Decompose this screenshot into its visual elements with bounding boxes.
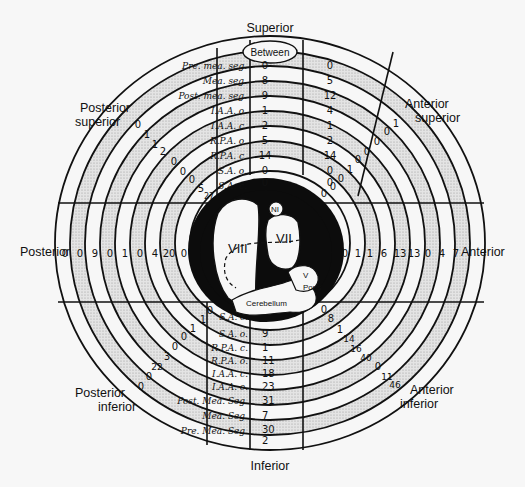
- value: 0: [330, 181, 336, 192]
- value-right: 0: [327, 165, 333, 176]
- label-posterior-superior-1: Posterior: [80, 101, 130, 115]
- value: 1: [190, 323, 196, 334]
- row-label: Pre. mea. seg.: [181, 61, 247, 71]
- label-posterior-inferior-1: Posterior: [75, 386, 125, 400]
- value: 31: [262, 395, 275, 406]
- value: 0: [138, 381, 144, 392]
- label-anterior-superior-1: Anterior: [405, 97, 449, 111]
- row-label: S.A. o.: [218, 166, 247, 176]
- row-label: R.P.A. o.: [210, 356, 248, 366]
- value-left: 0: [262, 60, 268, 71]
- value: 1: [355, 248, 361, 259]
- value-left: 9: [262, 90, 268, 101]
- value: 40: [360, 353, 372, 363]
- label-cerebellum: Cerebellum: [246, 299, 287, 308]
- value-left: 0: [262, 177, 268, 188]
- label-anterior: Anterior: [461, 245, 505, 259]
- value: 6: [381, 248, 387, 259]
- label-pons: Pons: [303, 283, 321, 292]
- value: 22: [151, 362, 162, 372]
- value: 9: [92, 248, 98, 259]
- value: 0: [374, 136, 380, 147]
- row-label: R.P.A. c.: [210, 343, 248, 353]
- row-label: Post. Mea. Seg.: [176, 396, 248, 406]
- value: 14: [343, 334, 355, 344]
- value: 0: [321, 188, 327, 199]
- value: 0: [171, 156, 177, 167]
- value: 1: [144, 129, 150, 140]
- value: 0: [146, 371, 152, 382]
- value: 0: [375, 361, 381, 372]
- value-left: 14: [259, 150, 272, 161]
- value: 4: [439, 248, 445, 259]
- row-label: S.A. c.: [218, 181, 247, 191]
- value: 23: [262, 381, 275, 392]
- value: 2: [262, 435, 268, 446]
- value-left: 8: [262, 75, 268, 86]
- value: 2: [160, 146, 166, 157]
- value: 0: [181, 331, 187, 342]
- value: 13: [394, 248, 407, 259]
- label-viii: VIII: [228, 241, 248, 256]
- row-label: Mea. seg.: [202, 76, 247, 86]
- value: 7: [453, 248, 459, 259]
- value: 0: [107, 248, 113, 259]
- value: 0: [62, 248, 68, 259]
- row-label: I.A.A. c.: [210, 121, 247, 131]
- value: 1: [122, 248, 128, 259]
- row-label: Pre. Mea. Seg.: [180, 426, 248, 436]
- value-left: 5: [262, 135, 268, 146]
- value: 0: [384, 126, 390, 137]
- value: 13: [408, 248, 421, 259]
- value-right: 12: [324, 90, 337, 101]
- row-label: I.A.A. c.: [211, 369, 248, 379]
- row-label: I.A.A. o.: [210, 106, 247, 116]
- row-label: Mea. Seg.: [201, 411, 248, 421]
- value: 18: [262, 368, 275, 379]
- value: 0: [181, 248, 187, 259]
- value: 8: [328, 313, 334, 324]
- value: 0: [135, 119, 141, 130]
- value: 1: [200, 314, 206, 325]
- value: 4: [152, 248, 158, 259]
- value-right: 4: [327, 105, 333, 116]
- posterior-values: 0 0 9 0 1 0 4 20 0: [62, 248, 187, 259]
- label-ni: NI: [271, 205, 279, 214]
- anterior-values: 0 1 1 6 13 13 0 4 7: [342, 248, 459, 259]
- value: 11: [262, 355, 275, 366]
- value-left: 1: [262, 105, 268, 116]
- value: 3: [164, 351, 170, 362]
- value: 0: [172, 341, 178, 352]
- value: 7: [262, 410, 268, 421]
- value: 0: [137, 248, 143, 259]
- value: 1: [367, 248, 373, 259]
- label-v: V: [303, 271, 309, 280]
- between-label: Between: [251, 47, 290, 58]
- value: 0: [425, 248, 431, 259]
- label-inferior: Inferior: [251, 459, 290, 473]
- value: 0: [189, 174, 195, 185]
- row-label: R.P.A. c.: [209, 151, 247, 161]
- value: 1: [152, 139, 158, 150]
- row-label: R.P.A. o.: [209, 136, 247, 146]
- row-label: S.A. c.: [219, 312, 248, 322]
- value-right: 0: [327, 60, 333, 71]
- value: 0: [364, 146, 370, 157]
- label-vii: VII: [276, 231, 292, 246]
- value: 0: [338, 173, 344, 184]
- value-right: 14: [324, 150, 337, 161]
- label-posterior-inferior-2: inferior: [98, 400, 136, 414]
- label-anterior-inferior-2: inferior: [400, 397, 438, 411]
- value: 0: [77, 248, 83, 259]
- row-label: S.A. o.: [219, 329, 248, 339]
- value: 1: [337, 324, 343, 335]
- value: 9: [262, 328, 268, 339]
- value-left: 2: [262, 120, 268, 131]
- label-anterior-inferior-1: Anterior: [410, 383, 454, 397]
- label-superior: Superior: [246, 21, 293, 35]
- value: 1: [347, 164, 353, 175]
- value-right: 2: [327, 135, 333, 146]
- value: 0: [207, 305, 213, 316]
- value: 0: [180, 166, 186, 177]
- between-label-group: Between: [243, 41, 297, 63]
